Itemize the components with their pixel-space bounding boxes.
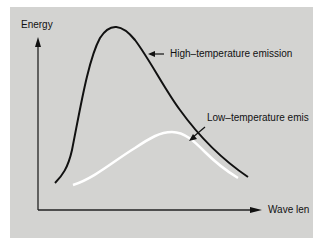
y-axis-arrow-icon <box>35 37 41 47</box>
high-temperature-label: High–temperature emission <box>170 48 292 59</box>
low-temperature-curve <box>73 132 238 185</box>
x-axis-label: Wave len <box>268 204 309 215</box>
low-temperature-label: Low–temperature emis <box>207 112 309 123</box>
high-pointer-arrow-icon <box>148 51 155 57</box>
y-axis-label: Energy <box>21 19 53 30</box>
x-axis-arrow-icon <box>250 207 262 213</box>
